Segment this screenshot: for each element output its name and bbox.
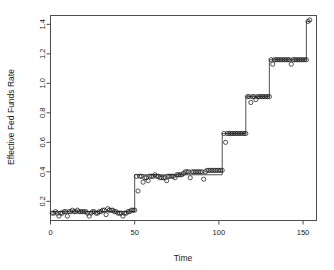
x-axis-label: Time [174,253,193,263]
fed-funds-rate-step-chart: 0.20.40.60.81.01.21.4 050100150 Effectiv… [0,0,334,270]
y-tick-label: 1.2 [38,49,47,59]
y-axis-label: Effective Fed Funds Rate [6,69,16,165]
x-tick-label: 100 [213,228,226,237]
chart-plot-area: 0.20.40.60.81.01.21.4 050100150 Effectiv… [0,0,334,270]
y-tick-label: 1.0 [38,78,47,88]
y-tick-label: 0.6 [38,137,47,147]
y-tick-label: 0.4 [38,167,47,177]
y-tick-label: 0.8 [38,108,47,118]
x-tick-label: 0 [48,228,52,237]
y-tick-label: 1.4 [38,19,47,29]
x-tick-label: 50 [131,228,139,237]
x-tick-label: 150 [297,228,310,237]
y-tick-label: 0.2 [38,196,47,206]
